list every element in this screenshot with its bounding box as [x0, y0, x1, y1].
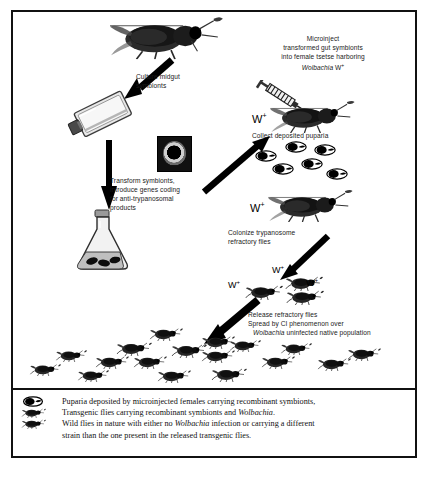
- legend: Puparia deposited by microinjected femal…: [20, 396, 412, 441]
- arrow-colonize-to-release: [276, 232, 334, 280]
- label-release: Release refractory flies Spread by CI ph…: [248, 310, 416, 337]
- wild-fly-17: [280, 341, 316, 355]
- legend-continuation: strain than the one present in the relea…: [20, 430, 412, 441]
- culture-line-2: symbionts: [136, 81, 222, 90]
- wild-fly-icon: [20, 418, 58, 429]
- puparium-icon: [20, 396, 58, 407]
- w-plus-4: +: [237, 279, 241, 285]
- puparium-5: [301, 156, 323, 168]
- wild-fly-13: [210, 366, 252, 382]
- legend-text-2a: Transgenic flies carrying recombinant sy…: [62, 408, 238, 417]
- wolbachia-italic-1: Wolbachia: [302, 64, 334, 71]
- transform-line-2: introduce genes coding: [110, 185, 210, 194]
- wild-fly-16: [76, 368, 114, 382]
- puparium-4: [272, 161, 294, 173]
- w-plus-5: +: [315, 277, 319, 283]
- w-plus-injected-female: W+: [252, 112, 266, 125]
- fly-injected-female: [268, 101, 360, 133]
- label-culture-symbionts: Culture midgut symbionts: [136, 72, 222, 90]
- wild-fly-8: [200, 348, 240, 363]
- puparium-2: [285, 139, 307, 151]
- w-plus-release-top: W+: [272, 264, 284, 275]
- release-line-1: Release refractory flies: [248, 310, 416, 319]
- transgenic-fly-icon: [20, 407, 58, 418]
- w-plus-release-left: W+: [228, 279, 240, 290]
- wild-fly-11: [346, 346, 386, 361]
- label-microinject: Microinject transformed gut symbionts in…: [248, 34, 398, 72]
- w-plus-1: +: [262, 112, 266, 119]
- microinject-line-2: transformed gut symbionts: [248, 43, 398, 52]
- w-letter-4: W: [228, 280, 237, 290]
- arrow-transform-to-microinject: [196, 136, 272, 198]
- release-line-3: Wolbachia uninfected native population: [248, 328, 416, 337]
- fly-release-3: [284, 288, 330, 305]
- label-transform-symbionts: Transform symbionts, introduce genes cod…: [110, 176, 210, 212]
- wild-fly-6: [94, 354, 134, 369]
- wild-fly-7: [132, 354, 172, 369]
- fly-colonized: [266, 190, 358, 222]
- legend-entry-puparia: Puparia deposited by microinjected femal…: [20, 396, 412, 407]
- microinject-line-4: Wolbachia W+: [248, 61, 398, 72]
- wild-fly-12: [156, 368, 196, 383]
- wild-fly-14: [54, 348, 92, 362]
- micrograph-cell: [163, 141, 186, 166]
- w-letter-2: W: [250, 202, 260, 214]
- culture-flask: [60, 88, 142, 146]
- w-letter-3: W: [272, 265, 281, 275]
- legend-text-2b: .: [273, 408, 275, 417]
- transform-line-1: Transform symbionts,: [110, 176, 210, 185]
- wild-fly-15: [28, 362, 66, 376]
- microinject-plus: +: [341, 62, 344, 68]
- w-plus-colonized: W+: [250, 201, 264, 214]
- puparium-6: [326, 166, 348, 178]
- legend-text-3a: Wild flies in nature with either no: [62, 419, 175, 428]
- wild-fly-9: [260, 354, 300, 369]
- microinject-line-1: Microinject: [248, 34, 398, 43]
- legend-divider: [13, 388, 415, 390]
- wolbachia-italic-2: Wolbachia: [253, 329, 285, 336]
- symbiont-micrograph: [157, 136, 192, 172]
- release-line-3-rest: uninfected native population: [285, 329, 371, 336]
- transform-line-3: for anti-trypanosomal: [110, 194, 210, 203]
- tsetse-fly-source: [108, 16, 230, 60]
- release-line-2: Spread by CI phenomenon over: [248, 319, 416, 328]
- figure-canvas: Culture midgut symbionts Transform symbi…: [0, 0, 429, 478]
- label-collect-puparia: Collect deposited puparia: [252, 131, 392, 140]
- w-plus-release-right: W+: [306, 277, 318, 288]
- w-plus-3: +: [281, 264, 285, 270]
- culture-line-1: Culture midgut: [136, 72, 222, 81]
- microinject-line-3: into female tsetse harboring: [248, 52, 398, 61]
- puparium-3: [314, 142, 336, 154]
- erlenmeyer-flask: [70, 208, 136, 274]
- legend-text-3b: infection or carrying a different: [209, 419, 314, 428]
- w-plus-2: +: [260, 201, 264, 208]
- legend-italic-2: Wolbachia: [238, 408, 273, 417]
- legend-entry-transgenic: Transgenic flies carrying recombinant sy…: [20, 407, 412, 418]
- w-letter-5: W: [306, 278, 315, 288]
- legend-entry-wild: Wild flies in nature with either no Wolb…: [20, 418, 412, 429]
- w-letter-1: W: [252, 113, 262, 125]
- wild-fly-1: [148, 326, 188, 341]
- legend-italic-3: Wolbachia: [175, 419, 210, 428]
- legend-text-1: Puparia deposited by microinjected femal…: [62, 397, 315, 406]
